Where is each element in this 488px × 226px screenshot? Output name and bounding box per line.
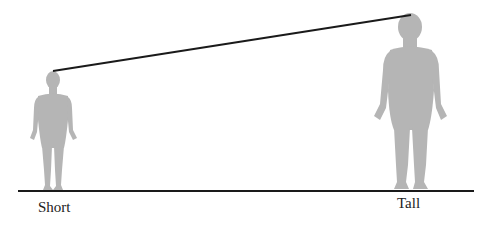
height-comparison-diagram: [0, 0, 488, 226]
tall-person-figure: [374, 13, 447, 189]
height-slope-line: [53, 15, 411, 71]
short-label: Short: [38, 199, 71, 216]
tall-label: Tall: [397, 195, 420, 212]
short-person-figure: [30, 71, 77, 190]
